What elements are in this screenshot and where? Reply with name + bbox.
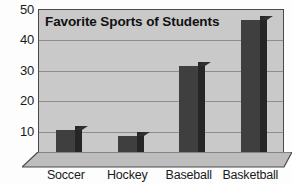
x-axis-tick-label: Baseball bbox=[166, 168, 212, 182]
x-axis: SoccerHockeyBaseballBasketball bbox=[0, 168, 292, 185]
bar-side-face bbox=[260, 16, 267, 156]
y-axis-tick-label: 20 bbox=[4, 94, 34, 107]
y-axis-tick-label: 50 bbox=[4, 3, 34, 16]
bar bbox=[118, 136, 137, 160]
x-axis-tick-label: Hockey bbox=[107, 168, 147, 182]
y-axis: 1020304050 bbox=[0, 0, 34, 185]
plot-area: Favorite Sports of Students bbox=[38, 9, 284, 161]
bar bbox=[179, 66, 198, 160]
bar-front-face bbox=[56, 130, 75, 160]
bar bbox=[241, 20, 260, 160]
x-axis-tick-label: Basketball bbox=[222, 168, 278, 182]
bar-front-face bbox=[179, 66, 198, 160]
x-axis-tick-label: Soccer bbox=[47, 168, 85, 182]
y-axis-tick-label: 40 bbox=[4, 33, 34, 46]
y-axis-tick-label: 30 bbox=[4, 63, 34, 76]
bar bbox=[56, 130, 75, 160]
bar-series bbox=[39, 10, 283, 160]
bar-front-face bbox=[241, 20, 260, 160]
bar-front-face bbox=[118, 136, 137, 160]
y-axis-tick-label: 10 bbox=[4, 124, 34, 137]
chart-figure: 1020304050 Favorite Sports of Students S… bbox=[0, 0, 292, 185]
bar-side-face bbox=[198, 62, 205, 156]
bar-side-face bbox=[75, 126, 82, 156]
